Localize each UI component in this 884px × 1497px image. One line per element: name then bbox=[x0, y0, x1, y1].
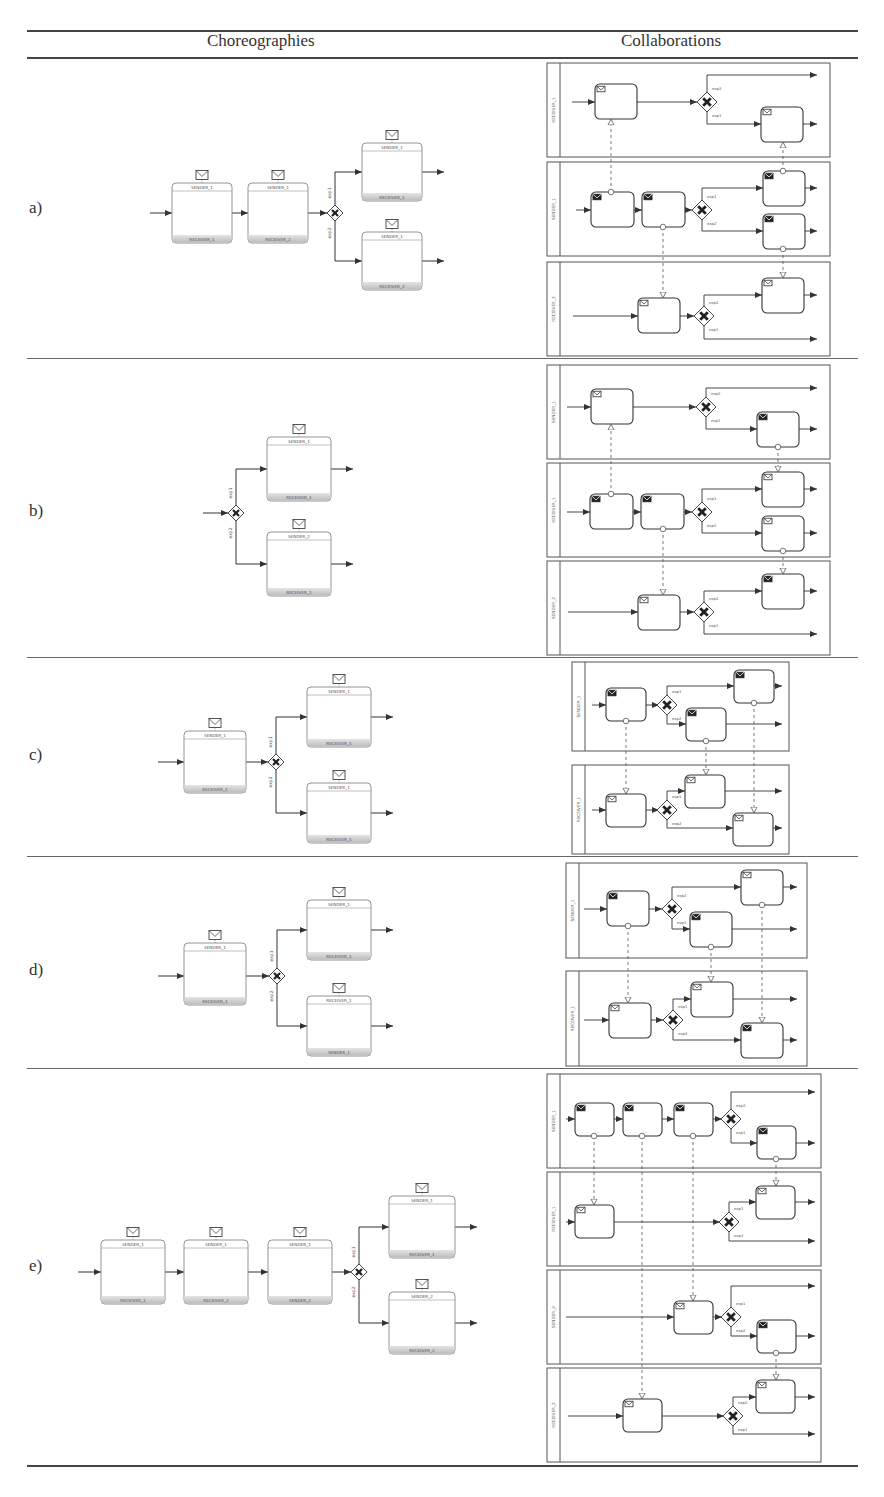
envelope-icon bbox=[416, 1280, 428, 1289]
receive-task bbox=[762, 516, 804, 551]
envelope-icon bbox=[640, 597, 648, 603]
initiating-participant: SENDER_1 bbox=[267, 185, 289, 190]
receive-task bbox=[762, 278, 804, 313]
gateway-condition-label: exp2 bbox=[734, 1233, 744, 1238]
receiving-participant: RECEIVER_2 bbox=[203, 1298, 229, 1303]
receive-task bbox=[595, 84, 637, 119]
gateway-condition-label: exp1 bbox=[707, 496, 717, 501]
initiating-participant: SENDER_1 bbox=[381, 145, 403, 150]
initiating-participant: SENDER_1 bbox=[205, 1242, 227, 1247]
choreography-c: exp1exp2SENDER_1RECEIVER_1SENDER_1RECEIV… bbox=[158, 675, 393, 844]
envelope-icon bbox=[625, 1105, 633, 1111]
envelope-icon bbox=[609, 893, 617, 899]
gateway-condition-label: exp1 bbox=[711, 418, 721, 423]
choreography-b: exp1exp2SENDER_1RECEIVER_1SENDER_2RECEIV… bbox=[203, 425, 353, 597]
choreographies-layer: exp1exp2SENDER_1RECEIVER_1SENDER_1RECEIV… bbox=[78, 131, 477, 1355]
gateway-condition-label: exp2 bbox=[736, 1103, 746, 1108]
receiving-participant: RECEIVER_1 bbox=[326, 954, 352, 959]
gateway-condition-label: exp2 bbox=[268, 776, 273, 787]
gateway-condition-label: exp2 bbox=[351, 1286, 356, 1297]
gateway-condition-label: exp1 bbox=[678, 1004, 688, 1009]
envelope-icon bbox=[333, 675, 345, 684]
receive-task bbox=[575, 1205, 614, 1238]
gateway-condition-label: exp1 bbox=[736, 1130, 746, 1135]
receiving-participant: RECEIVER_2 bbox=[379, 284, 405, 289]
envelope-icon bbox=[294, 1228, 306, 1237]
send-task bbox=[757, 1320, 796, 1353]
exclusive-gateway bbox=[327, 205, 343, 221]
envelope-icon bbox=[333, 888, 345, 897]
exclusive-gateway bbox=[269, 968, 285, 984]
pool-name: RECEIVER_1 bbox=[551, 97, 556, 123]
envelope-icon bbox=[196, 171, 208, 180]
initiating-participant: SENDER_1 bbox=[204, 945, 226, 950]
collaboration-b: SENDER_1RECEIVER_1SENDER_2exp2exp1exp1ex… bbox=[547, 365, 830, 655]
gateway-condition-label: exp2 bbox=[672, 821, 682, 826]
envelope-icon bbox=[608, 796, 616, 802]
initiating-participant: SENDER_1 bbox=[289, 1242, 311, 1247]
receiving-participant: RECEIVER_1 bbox=[409, 1252, 435, 1257]
exclusive-gateway bbox=[268, 754, 284, 770]
envelope-icon bbox=[593, 391, 601, 397]
initiating-participant: SENDER_1 bbox=[122, 1242, 144, 1247]
pool-name: RECEIVER_1 bbox=[551, 497, 556, 523]
envelope-icon bbox=[593, 194, 601, 200]
envelope-icon bbox=[272, 171, 284, 180]
choreography-task: SENDER_1RECEIVER_1 bbox=[184, 931, 246, 1006]
initiating-participant: SENDER_2 bbox=[411, 1294, 433, 1299]
send-task bbox=[591, 192, 634, 227]
gateway-condition-label: exp1 bbox=[707, 194, 717, 199]
gateway-condition-label: exp1 bbox=[672, 794, 682, 799]
gateway-condition-label: exp2 bbox=[712, 86, 722, 91]
choreography-task: SENDER_1RECEIVER_1 bbox=[362, 131, 422, 202]
envelope-icon bbox=[759, 1322, 767, 1328]
envelope-icon bbox=[763, 109, 771, 115]
choreography-task: SENDER_1RECEIVER_1 bbox=[307, 771, 371, 844]
receiving-participant: RECEIVER_1 bbox=[326, 741, 352, 746]
sequence-flow bbox=[359, 1227, 389, 1264]
collaboration-c: SENDER_1RECEIVER_1exp1exp2exp1exp2 bbox=[572, 662, 789, 854]
collaboration-e: SENDER_1RECEIVER_1SENDER_2RECEIVER_2exp2… bbox=[547, 1074, 821, 1462]
send-task bbox=[686, 708, 726, 741]
choreography-task: SENDER_1RECEIVER_1 bbox=[267, 425, 331, 502]
gateway-condition-label: exp2 bbox=[709, 300, 719, 305]
collaborations-layer: RECEIVER_1SENDER_1RECEIVER_2exp2exp1exp1… bbox=[547, 63, 830, 1462]
receiving-participant: RECEIVER_1 bbox=[202, 999, 228, 1004]
receive-task bbox=[674, 1301, 713, 1334]
pool-name: SENDER_1 bbox=[570, 899, 575, 921]
send-task bbox=[762, 574, 804, 609]
envelope-icon bbox=[764, 576, 772, 582]
initiating-participant: SENDER_1 bbox=[328, 689, 350, 694]
envelope-icon bbox=[758, 1382, 766, 1388]
receiving-participant: RECEIVER_1 bbox=[326, 837, 352, 842]
sequence-flow bbox=[335, 172, 362, 205]
initiating-participant: SENDER_1 bbox=[381, 234, 403, 239]
receive-task bbox=[733, 813, 773, 846]
exclusive-gateway bbox=[351, 1264, 367, 1280]
envelope-icon bbox=[692, 914, 700, 920]
sequence-flow bbox=[277, 930, 307, 968]
sequence-flow bbox=[277, 984, 307, 1026]
gateway-condition-label: exp2 bbox=[711, 391, 721, 396]
envelope-icon bbox=[693, 984, 701, 990]
choreography-task: SENDER_1RECEIVER_1 bbox=[172, 171, 232, 244]
send-task bbox=[690, 912, 732, 947]
send-task bbox=[606, 688, 646, 721]
receive-task bbox=[591, 389, 633, 424]
gateway-condition-label: exp1 bbox=[351, 1246, 356, 1257]
send-task bbox=[575, 1103, 614, 1136]
receive-task bbox=[638, 298, 680, 333]
sequence-flow bbox=[276, 770, 307, 813]
envelope-icon bbox=[758, 1188, 766, 1194]
choreography-task: RECEIVER_1SENDER_1 bbox=[307, 984, 371, 1057]
envelope-icon bbox=[333, 771, 345, 780]
receiving-participant: RECEIVER_1 bbox=[120, 1298, 146, 1303]
gateway-condition-label: exp1 bbox=[712, 113, 722, 118]
receive-task bbox=[606, 794, 646, 827]
receiving-participant: RECEIVER_1 bbox=[189, 237, 215, 242]
gateway-condition-label: exp2 bbox=[269, 990, 274, 1001]
envelope-icon bbox=[592, 496, 600, 502]
envelope-icon bbox=[611, 1005, 619, 1011]
choreography-task: SENDER_1RECEIVER_1 bbox=[184, 719, 246, 794]
send-task bbox=[674, 1103, 713, 1136]
